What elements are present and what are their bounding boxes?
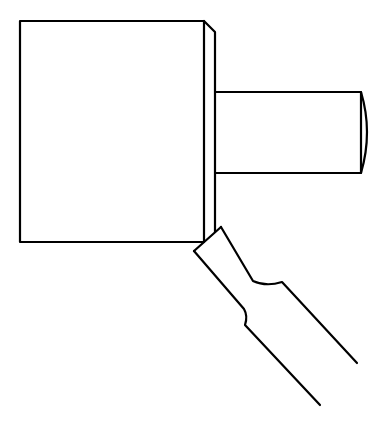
cutting-tool-tip [194, 227, 221, 251]
cutting-tool-right-edge [221, 227, 357, 363]
lathe-diagram [0, 0, 384, 425]
cutting-tool-left-edge [194, 251, 320, 405]
shaft [215, 92, 367, 173]
workpiece-block [20, 21, 204, 242]
diagram-svg [0, 0, 384, 425]
chamfer-face [204, 21, 215, 232]
